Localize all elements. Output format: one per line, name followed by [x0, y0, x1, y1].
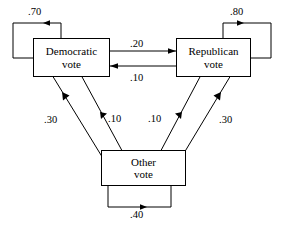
arrowhead-republican-self: [237, 20, 244, 25]
edge-republican-to-democratic: [110, 63, 176, 68]
node-democratic-vote[interactable]: Democratic vote: [33, 38, 110, 77]
arrowhead-oth-to-rep: [214, 92, 222, 101]
node-republican-label-line2: vote: [204, 58, 223, 70]
edge-other-self-loop: [108, 186, 171, 210]
node-other-vote[interactable]: Other vote: [101, 150, 186, 186]
arrowhead-oth-to-dem: [62, 92, 70, 101]
edge-label-democratic-self: .70: [28, 6, 41, 17]
diagram-edges-canvas: [0, 0, 286, 229]
edge-democratic-to-republican: [110, 48, 176, 53]
arrowhead-dem-to-rep: [168, 48, 176, 53]
node-other-label-line2: vote: [134, 168, 153, 180]
edge-label-republican-to-other: .10: [148, 113, 161, 124]
arrowhead-rep-to-dem: [110, 63, 118, 68]
edge-label-other-self: .40: [130, 209, 143, 220]
edge-label-democratic-to-republican: .20: [130, 38, 143, 49]
node-other-label-line1: Other: [131, 156, 156, 168]
edge-label-other-to-republican: .30: [219, 114, 232, 125]
arrowhead-democratic-self: [43, 20, 50, 25]
edge-label-republican-to-democratic: .10: [130, 72, 143, 83]
edge-label-republican-self: .80: [230, 6, 243, 17]
edge-label-other-to-democratic: .30: [44, 114, 57, 125]
edge-republican-to-other: [157, 75, 201, 158]
arrowhead-dem-to-oth: [100, 112, 107, 119]
node-republican-label-line1: Republican: [188, 45, 238, 57]
node-republican-vote[interactable]: Republican vote: [176, 38, 251, 77]
node-democratic-label-line1: Democratic: [46, 45, 97, 57]
edge-label-democratic-to-other: .10: [108, 113, 121, 124]
transition-diagram: Democratic vote Republican vote Other vo…: [0, 0, 286, 229]
node-democratic-label-line2: vote: [62, 58, 81, 70]
